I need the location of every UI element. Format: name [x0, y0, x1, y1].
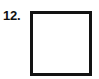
square-outline-icon [30, 11, 92, 76]
worksheet-item: 12. [0, 0, 99, 79]
square-interior-label [33, 14, 89, 73]
item-number-label: 12. [3, 8, 20, 23]
